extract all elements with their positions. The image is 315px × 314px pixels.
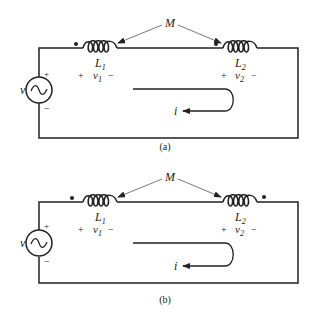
v1-minus: − <box>108 224 114 235</box>
inductor-l2 <box>223 195 257 206</box>
wire-loop <box>39 48 298 138</box>
source-label: v <box>20 236 26 250</box>
v1-plus: + <box>78 70 84 81</box>
current-label: i <box>174 104 177 118</box>
inductor-l1 <box>83 195 117 206</box>
v1-label: v1 <box>93 69 102 84</box>
source-label: v <box>20 83 26 97</box>
dot-l1 <box>74 42 78 46</box>
source-minus: − <box>44 103 50 114</box>
mutual-arrow-right <box>178 179 221 197</box>
mutual-label: M <box>164 16 176 30</box>
dot-l2 <box>262 195 266 199</box>
current-arrow <box>133 243 233 266</box>
v1-minus: − <box>108 70 114 81</box>
dot-l2 <box>214 42 218 46</box>
v2-minus: − <box>251 224 257 235</box>
panel-a-label: (a) <box>159 141 170 153</box>
source-minus: − <box>44 256 50 267</box>
mutual-label: M <box>164 170 176 184</box>
panel-b-label: (b) <box>159 294 171 306</box>
inductor-l1 <box>83 41 117 52</box>
panel-a: M L1 L2 + v1 − + v2 − v + − i (a) <box>20 16 298 153</box>
mutual-arrow-left <box>118 179 162 197</box>
inductor-l2 <box>223 41 257 52</box>
source-plus: + <box>44 69 49 79</box>
mutual-arrow-left <box>118 25 162 43</box>
v2-plus: + <box>221 224 227 235</box>
panel-b: M L1 L2 + v1 − + v2 − v + − i (b) <box>20 170 298 306</box>
source-plus: + <box>44 221 49 231</box>
v2-plus: + <box>221 70 227 81</box>
circuit-diagram: M L1 L2 + v1 − + v2 − v + − i (a) M L1 L… <box>0 0 315 314</box>
v1-plus: + <box>78 224 84 235</box>
current-label: i <box>174 259 177 273</box>
current-arrow <box>133 89 233 111</box>
dot-l1 <box>70 196 74 200</box>
v1-label: v1 <box>93 223 102 238</box>
v2-minus: − <box>251 70 257 81</box>
mutual-arrow-right <box>178 25 221 43</box>
